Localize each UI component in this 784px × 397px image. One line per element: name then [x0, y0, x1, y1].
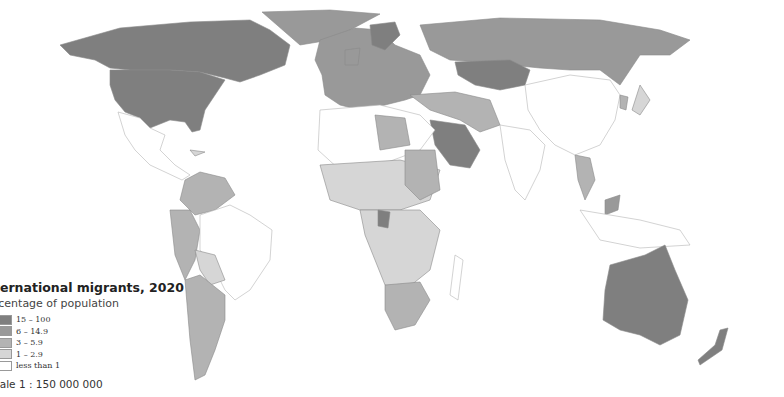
- legend-subtitle: rcentage of population: [0, 297, 214, 310]
- legend-item: 6 – 14.9: [0, 326, 214, 338]
- legend-label: 6 – 14.9: [16, 327, 48, 336]
- legend-swatch: [0, 326, 12, 336]
- region-australia: [603, 245, 688, 345]
- legend-label: less than 1: [16, 361, 60, 370]
- region-central-africa: [360, 210, 440, 290]
- legend-item: 1 – 2.9: [0, 349, 214, 361]
- legend-label: 1 – 2.9: [16, 350, 43, 359]
- legend-swatch: [0, 338, 12, 348]
- region-thailand: [575, 155, 595, 200]
- region-gabon: [378, 210, 390, 228]
- legend-label: 3 – 5.9: [16, 338, 43, 347]
- region-libya: [375, 115, 410, 150]
- legend-item: less than 1: [0, 360, 214, 372]
- region-india: [500, 125, 545, 200]
- legend-item: 15 – 100: [0, 314, 214, 326]
- region-japan: [632, 85, 650, 115]
- map-legend: ternational migrants, 2020 rcentage of p…: [0, 280, 214, 390]
- legend-swatch: [0, 361, 12, 371]
- legend-label: 15 – 100: [16, 315, 51, 324]
- legend-items: 15 – 100 6 – 14.9 3 – 5.9 1 – 2.9 less t…: [0, 314, 214, 372]
- legend-swatch: [0, 349, 12, 359]
- region-indonesia: [580, 210, 690, 248]
- legend-item: 3 – 5.9: [0, 337, 214, 349]
- region-malaysia: [605, 195, 620, 215]
- region-madagascar: [450, 255, 463, 300]
- map-scale: cale 1 : 150 000 000: [0, 378, 214, 390]
- legend-title: ternational migrants, 2020: [0, 280, 214, 295]
- legend-swatch: [0, 315, 12, 325]
- region-peru-ecuador: [170, 210, 200, 280]
- region-southern-africa: [385, 282, 430, 330]
- region-uk: [345, 48, 360, 65]
- region-kazakhstan: [455, 60, 530, 90]
- region-new-zealand: [698, 328, 728, 365]
- region-korea: [620, 95, 628, 110]
- region-caribbean: [190, 150, 205, 156]
